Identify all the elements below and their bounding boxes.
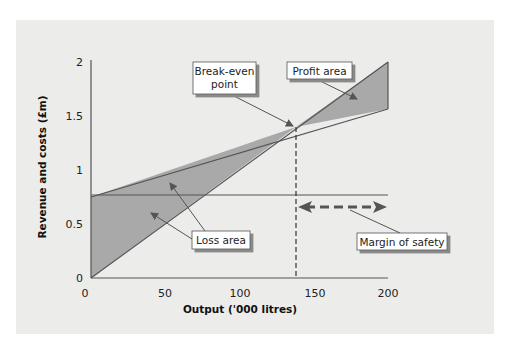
y-axis-title: Revenue and costs (£m) <box>36 95 48 238</box>
x-axis-title: Output ('000 litres) <box>183 303 297 315</box>
x-tick-100: 100 <box>230 287 251 300</box>
callout-break-even-line2: point <box>211 78 238 90</box>
y-tick-1: 1 <box>76 164 83 177</box>
break-even-chart: 0 0.5 1 1.5 2 0 50 100 150 200 Output ('… <box>0 0 515 356</box>
breakeven-leader <box>230 94 293 126</box>
y-tick-2: 2 <box>76 56 83 69</box>
y-tick-1-5: 1.5 <box>66 110 84 123</box>
callout-break-even-line1: Break-even <box>195 65 255 77</box>
callout-margin-of-safety-text: Margin of safety <box>359 236 444 248</box>
margin-leader <box>350 210 400 233</box>
y-tick-0: 0 <box>76 272 83 285</box>
margin-arrowhead-right-icon <box>373 201 387 213</box>
x-tick-0: 0 <box>82 287 89 300</box>
x-tick-50: 50 <box>158 287 172 300</box>
y-tick-0-5: 0.5 <box>66 218 84 231</box>
x-tick-200: 200 <box>378 287 399 300</box>
x-tick-150: 150 <box>305 287 326 300</box>
total-costs-line <box>91 109 388 197</box>
callout-profit-area-text: Profit area <box>292 65 346 77</box>
callout-loss-area-text: Loss area <box>196 234 246 246</box>
